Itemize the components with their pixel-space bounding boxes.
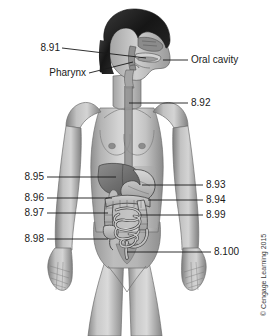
larynx — [125, 70, 135, 88]
label-8-94: 8.94 — [206, 194, 225, 205]
label-pharynx: Pharynx — [32, 67, 86, 78]
head-profile — [99, 9, 170, 88]
label-8-98: 8.98 — [8, 233, 44, 244]
rectum-fill — [126, 242, 127, 258]
label-8-91: 8.91 — [22, 42, 60, 53]
right-arm — [173, 126, 199, 250]
label-8-93: 8.93 — [206, 179, 225, 190]
left-arm — [55, 126, 81, 250]
label-8-100: 8.100 — [214, 246, 239, 257]
label-8-96: 8.96 — [8, 192, 44, 203]
label-8-97: 8.97 — [8, 207, 44, 218]
copyright-credit: © Cengage Learning 2015 — [260, 234, 267, 316]
label-8-95: 8.95 — [8, 171, 44, 182]
label-8-99: 8.99 — [206, 209, 225, 220]
label-oral-cavity: Oral cavity — [191, 54, 238, 65]
label-8-92: 8.92 — [191, 97, 210, 108]
anatomy-figure: 8.91 Pharynx Oral cavity 8.92 8.95 8.96 … — [0, 0, 271, 336]
